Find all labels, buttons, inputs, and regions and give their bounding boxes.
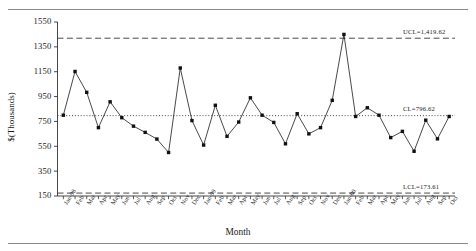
data-point — [120, 116, 123, 119]
data-point — [249, 96, 252, 99]
data-point — [424, 118, 427, 121]
y-tick-label: 1350 — [0, 41, 52, 51]
data-point — [202, 143, 205, 146]
data-point — [284, 142, 287, 145]
data-point — [179, 66, 182, 69]
data-point — [377, 114, 380, 117]
y-tick-label: 1550 — [0, 16, 52, 26]
data-point — [62, 114, 65, 117]
y-tick-label: 350 — [0, 166, 52, 176]
data-point — [272, 121, 275, 124]
data-point — [401, 130, 404, 133]
data-point — [436, 137, 439, 140]
plot-area: 150350550750950115013501550Jan-98FebMarA… — [0, 0, 476, 251]
data-point — [167, 151, 170, 154]
x-axis-title: Month — [0, 227, 476, 237]
data-point — [108, 100, 111, 103]
data-point — [155, 137, 158, 140]
data-point — [225, 135, 228, 138]
control-chart-figure: 150350550750950115013501550Jan-98FebMarA… — [0, 0, 476, 251]
chart-svg — [0, 0, 476, 251]
data-point — [319, 126, 322, 129]
data-point — [260, 114, 263, 117]
data-point — [366, 106, 369, 109]
data-point — [143, 131, 146, 134]
data-point — [447, 115, 450, 118]
data-point — [97, 126, 100, 129]
y-axis-title: $(Thousands) — [6, 72, 16, 162]
y-tick-label: 150 — [0, 190, 52, 200]
data-point — [342, 33, 345, 36]
data-point — [412, 150, 415, 153]
data-point — [295, 112, 298, 115]
data-point — [73, 70, 76, 73]
control-limit-label-lcl: LCL=173.61 — [403, 183, 439, 190]
data-point — [307, 132, 310, 135]
data-point — [214, 104, 217, 107]
data-point — [190, 119, 193, 122]
series-line-0 — [63, 34, 449, 152]
data-point — [85, 91, 88, 94]
data-point — [389, 136, 392, 139]
control-limit-label-ucl: UCL=1,419.62 — [403, 28, 445, 35]
control-limit-label-cl: CL=796.62 — [403, 105, 435, 112]
data-point — [237, 120, 240, 123]
data-point — [354, 115, 357, 118]
data-point — [331, 99, 334, 102]
data-point — [132, 124, 135, 127]
